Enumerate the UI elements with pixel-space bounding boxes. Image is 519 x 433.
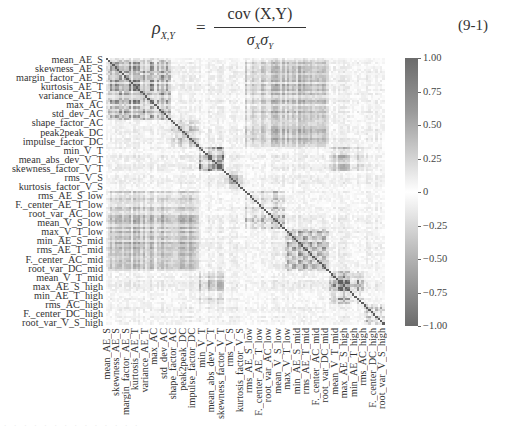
correlation-equation: ρX,Y = cov (X,Y) σXσY: [152, 4, 312, 54]
x-tick-label: root_var_V_S_high: [377, 328, 387, 409]
colorbar-tick: 1.00: [418, 53, 441, 63]
colorbar: [405, 58, 418, 326]
correlation-heatmap: [106, 58, 385, 325]
fraction: cov (X,Y) σXσY: [214, 5, 306, 51]
colorbar-tick: −0.25: [418, 221, 447, 231]
heatmap-canvas: [106, 58, 385, 325]
colorbar-tick: 0: [418, 187, 428, 197]
fraction-bar: [214, 27, 306, 28]
colorbar-tick: 0.75: [418, 87, 441, 97]
equals-sign: =: [196, 18, 206, 38]
x-axis-labels: mean_AE_Sskewness_AE_Smargin_factor_AE_S…: [106, 328, 385, 428]
colorbar-tick: −0.75: [418, 288, 447, 298]
y-axis-labels: mean_AE_Sskewness_AE_Smargin_factor_AE_S…: [0, 58, 103, 325]
colorbar-tick: −1.00: [418, 321, 447, 331]
denominator: σXσY: [214, 31, 306, 51]
y-tick-label: root_var_V_S_high: [22, 318, 103, 328]
equation-number: (9-1): [458, 17, 488, 34]
colorbar-tick: 0.25: [418, 154, 441, 164]
equation-lhs: ρX,Y: [152, 18, 175, 41]
faint-caption: · · · · · · · · · · · · · ·: [4, 422, 140, 430]
numerator: cov (X,Y): [214, 5, 306, 25]
colorbar-tick: −0.50: [418, 254, 447, 264]
colorbar-tick: 0.50: [418, 120, 441, 130]
